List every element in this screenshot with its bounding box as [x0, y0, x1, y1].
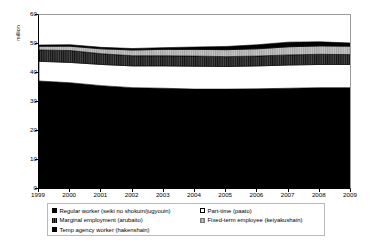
x-axis-tick: 2007: [275, 191, 301, 198]
x-axis-tick: 2003: [150, 191, 176, 198]
legend-swatch-icon: [52, 218, 57, 223]
x-tick-mark: [38, 189, 39, 192]
legend-column-left: Regular worker (seiki no shokuin/jugyoui…: [52, 206, 171, 235]
x-tick-mark: [69, 189, 70, 192]
y-axis-tick: 10: [15, 156, 37, 162]
x-tick-mark: [100, 189, 101, 192]
legend-item-label: Marginal employment (arubaito): [60, 217, 143, 223]
y-axis-label: million: [15, 11, 21, 55]
x-axis-tick: 1999: [25, 191, 51, 198]
legend-column-right: Part-time (paato)Fixed-term employee (ke…: [200, 206, 302, 225]
y-axis-tick: 30: [15, 98, 37, 104]
y-axis-tick: 40: [15, 69, 37, 75]
x-axis-tick: 2009: [337, 191, 363, 198]
y-axis-tick: 20: [15, 127, 37, 133]
x-axis-tick: 2006: [243, 191, 269, 198]
legend-swatch-icon: [200, 208, 205, 213]
x-axis-tick: 2001: [87, 191, 113, 198]
legend-item[interactable]: Fixed-term employee (keiyakushain): [200, 216, 302, 226]
stacked-area-chart: [39, 14, 351, 188]
x-tick-mark: [163, 189, 164, 192]
y-axis-tick: 50: [15, 40, 37, 46]
x-tick-mark: [319, 189, 320, 192]
legend-swatch-icon: [52, 208, 57, 213]
y-axis-tick: 60: [15, 11, 37, 17]
legend-item[interactable]: Temp agency worker (hakenshain): [52, 225, 171, 235]
x-axis-tick: 2008: [306, 191, 332, 198]
legend-item-label: Regular worker (seiki no shokuin/jugyoui…: [60, 208, 171, 214]
y-axis: million 6050403020100: [10, 0, 37, 251]
chart-root: million 6050403020100 199920002001200220…: [0, 0, 370, 251]
x-axis-tick: 2005: [212, 191, 238, 198]
x-tick-mark: [194, 189, 195, 192]
x-tick-mark: [132, 189, 133, 192]
chart-legend: Regular worker (seiki no shokuin/jugyoui…: [47, 203, 325, 236]
legend-item[interactable]: Marginal employment (arubaito): [52, 216, 171, 226]
legend-item-label: Part-time (paato): [208, 208, 252, 214]
legend-swatch-icon: [200, 218, 205, 223]
legend-item-label: Temp agency worker (hakenshain): [60, 227, 150, 233]
x-axis-tick: 2004: [181, 191, 207, 198]
area-series: [39, 81, 351, 188]
x-tick-mark: [256, 189, 257, 192]
legend-item[interactable]: Regular worker (seiki no shokuin/jugyoui…: [52, 206, 171, 216]
x-axis-tick: 2002: [119, 191, 145, 198]
x-tick-mark: [225, 189, 226, 192]
legend-swatch-icon: [52, 227, 57, 232]
x-tick-mark: [288, 189, 289, 192]
x-tick-mark: [350, 189, 351, 192]
legend-item[interactable]: Part-time (paato): [200, 206, 302, 216]
plot-area: [38, 14, 351, 189]
legend-item-label: Fixed-term employee (keiyakushain): [208, 217, 303, 223]
x-axis-tick: 2000: [56, 191, 82, 198]
